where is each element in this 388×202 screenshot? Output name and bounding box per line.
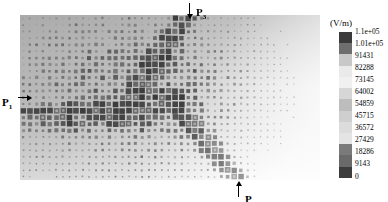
annotation-p2-arrow-shaft [238, 185, 239, 197]
colorbar-swatch [339, 43, 352, 54]
colorbar-tick-labels: 1.1e+051.01e+059143182288731456400254859… [355, 27, 388, 179]
colorbar-swatch [339, 133, 352, 144]
annotation-p3-label: P3 [196, 6, 206, 18]
colorbar-swatch [339, 32, 352, 43]
colorbar-swatch [339, 111, 352, 122]
colorbar-tick-label: 45715 [355, 112, 374, 120]
colorbar-swatch [339, 99, 352, 110]
colorbar-tick-label: 0 [355, 173, 359, 181]
colorbar-swatch [339, 144, 352, 155]
annotation-p1-arrow-head-icon [27, 95, 32, 101]
colorbar-tick-label: 64002 [355, 88, 374, 96]
colorbar-tick-label: 91431 [355, 52, 374, 60]
colorbar-gradient [339, 32, 352, 178]
annotation-p3-arrow-head-icon [187, 14, 193, 19]
annotation-p3: P3 [196, 2, 206, 21]
colorbar-swatch [339, 66, 352, 77]
colorbar-tick-label: 54859 [355, 100, 374, 108]
annotation-p1-label: P1 [2, 96, 12, 108]
annotation-p2-label: P2 [245, 193, 255, 202]
colorbar-unit-label: (V/m) [330, 18, 352, 28]
colorbar-tick-label: 1.1e+05 [355, 28, 379, 36]
colorbar-tick-label: 27429 [355, 136, 374, 144]
annotation-p1: P1 [2, 92, 12, 111]
annotation-p2: P2 [245, 189, 255, 202]
colorbar-swatch [339, 122, 352, 133]
colorbar-tick-label: 82288 [355, 64, 374, 72]
colorbar-tick-label: 18286 [355, 148, 374, 156]
colorbar-swatch [339, 54, 352, 65]
colorbar-tick-label: 36572 [355, 124, 374, 132]
colorbar-tick-label: 73145 [355, 76, 374, 84]
colorbar-legend: (V/m) 1.1e+051.01e+059143182288731456400… [330, 18, 388, 188]
figure-root: P3 P1 P2 (V/m) 1.1e+051.01e+059143182288… [0, 0, 388, 202]
colorbar-swatch [339, 77, 352, 88]
colorbar-swatch [339, 167, 352, 178]
colorbar-tick-label: 1.01e+05 [355, 40, 383, 48]
colorbar-tick-label: 9143 [355, 160, 370, 168]
colorbar-swatch [339, 155, 352, 166]
annotation-p2-arrow-head-icon [236, 181, 242, 186]
field-scatter-canvas [20, 15, 320, 180]
colorbar-swatch [339, 88, 352, 99]
field-plot-area [20, 15, 320, 180]
